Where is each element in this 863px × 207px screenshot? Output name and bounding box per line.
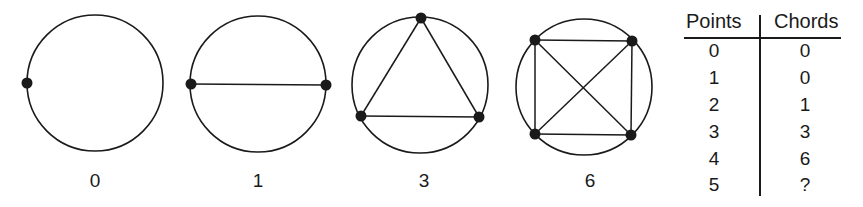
circle-outline <box>27 15 163 151</box>
point-dot <box>356 111 367 122</box>
point-dot <box>186 79 197 90</box>
header-points: Points <box>686 10 742 33</box>
point-dot <box>626 130 637 141</box>
circle-figure-3 <box>352 13 488 154</box>
chord-line <box>535 40 632 41</box>
chord-line <box>191 84 326 85</box>
cell-points: 0 <box>700 40 728 62</box>
cell-points: 5 <box>700 174 728 196</box>
cell-points: 1 <box>700 67 728 89</box>
point-dot <box>474 112 485 123</box>
column-divider <box>759 15 761 196</box>
cell-chords: ? <box>791 174 819 196</box>
chord-line <box>535 134 631 135</box>
chord-line <box>631 41 632 135</box>
chord-line <box>361 18 421 116</box>
point-dot <box>530 129 541 140</box>
cell-points: 3 <box>700 121 728 143</box>
circle-figure-0 <box>22 15 164 151</box>
chord-line <box>421 18 479 117</box>
circle-figure-1 <box>186 16 332 152</box>
cell-chords: 3 <box>791 121 819 143</box>
point-dot <box>321 80 332 91</box>
point-dot <box>416 13 427 24</box>
point-dot <box>22 78 33 89</box>
circle-outline <box>352 17 488 153</box>
cell-chords: 0 <box>791 40 819 62</box>
cell-chords: 6 <box>791 148 819 170</box>
cell-chords: 1 <box>791 94 819 116</box>
figure-label-1: 1 <box>238 170 278 192</box>
header-chords: Chords <box>774 10 838 33</box>
cell-chords: 0 <box>791 67 819 89</box>
cell-points: 4 <box>700 148 728 170</box>
chord-line <box>361 116 479 117</box>
header-rule <box>684 37 841 39</box>
circle-figure-6 <box>516 19 652 155</box>
cell-points: 2 <box>700 94 728 116</box>
figure-label-6: 6 <box>570 170 610 192</box>
figure-label-3: 3 <box>404 170 444 192</box>
point-dot <box>627 36 638 47</box>
figure-label-0: 0 <box>75 170 115 192</box>
point-dot <box>530 35 541 46</box>
